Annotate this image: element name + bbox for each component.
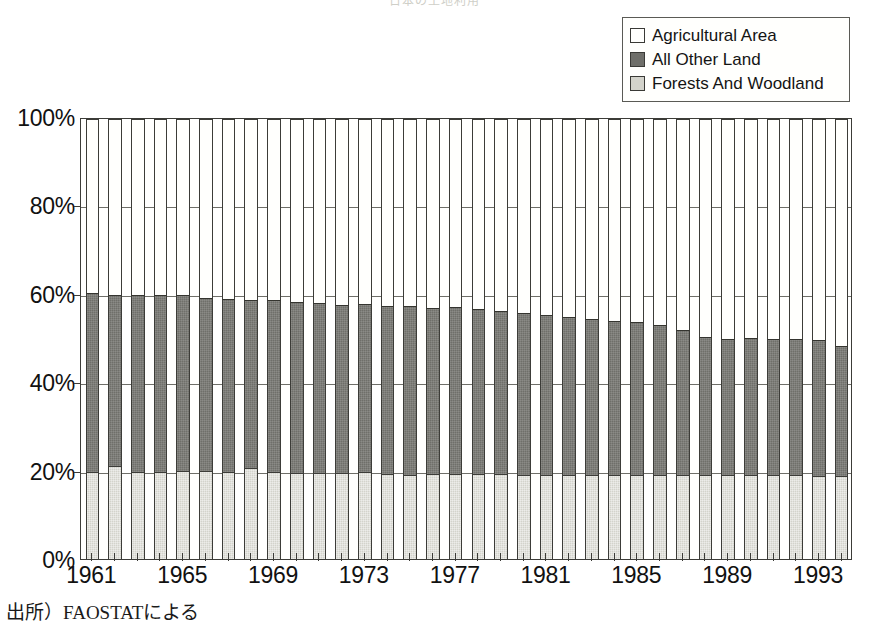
- bar-1994[interactable]: [835, 119, 849, 559]
- bar-segment-all-other-land: [540, 315, 554, 475]
- bar-segment-agricultural-area: [313, 119, 327, 303]
- bar-segment-forests-and-woodland: [835, 476, 849, 560]
- bar-1967[interactable]: [222, 119, 236, 559]
- bar-segment-all-other-land: [472, 309, 486, 475]
- chart-title: 日本の土地利用: [0, 0, 869, 8]
- bar-1976[interactable]: [426, 119, 440, 559]
- bar-1990[interactable]: [744, 119, 758, 559]
- bar-1982[interactable]: [562, 119, 576, 559]
- x-axis-tick-1969: 1969: [248, 562, 298, 589]
- bar-segment-all-other-land: [131, 295, 145, 471]
- bar-segment-agricultural-area: [290, 119, 304, 302]
- bar-1979[interactable]: [494, 119, 508, 559]
- bar-1987[interactable]: [676, 119, 690, 559]
- bar-segment-agricultural-area: [517, 119, 531, 313]
- x-axis-tick-mark-1986: [659, 553, 660, 561]
- bar-segment-agricultural-area: [358, 119, 372, 304]
- bar-1966[interactable]: [199, 119, 213, 559]
- bar-1970[interactable]: [290, 119, 304, 559]
- bar-segment-forests-and-woodland: [86, 472, 100, 560]
- bar-1964[interactable]: [154, 119, 168, 559]
- bar-segment-all-other-land: [699, 337, 713, 475]
- bar-segment-all-other-land: [108, 295, 122, 466]
- bar-1961[interactable]: [86, 119, 100, 559]
- bar-1969[interactable]: [267, 119, 281, 559]
- bar-segment-forests-and-woodland: [789, 475, 803, 560]
- bar-segment-agricultural-area: [222, 119, 236, 299]
- bar-1985[interactable]: [630, 119, 644, 559]
- bar-segment-forests-and-woodland: [381, 474, 395, 560]
- x-axis-tick-mark-1984: [614, 553, 615, 561]
- y-axis-tick-mark-80: [74, 206, 81, 207]
- bar-1963[interactable]: [131, 119, 145, 559]
- y-axis-tick-100: 100%: [17, 105, 75, 132]
- x-axis-tick-mark-1994: [841, 553, 842, 561]
- x-axis-tick-mark-1985: [636, 553, 637, 561]
- bar-segment-all-other-land: [494, 311, 508, 474]
- bar-1968[interactable]: [244, 119, 258, 559]
- x-axis-tick-mark-1965: [182, 553, 183, 561]
- bar-segment-agricultural-area: [335, 119, 349, 305]
- bar-segment-forests-and-woodland: [267, 472, 281, 560]
- bar-segment-agricultural-area: [789, 119, 803, 339]
- bar-1965[interactable]: [176, 119, 190, 559]
- bar-1988[interactable]: [699, 119, 713, 559]
- x-axis-tick-mark-1981: [545, 553, 546, 561]
- bar-1983[interactable]: [585, 119, 599, 559]
- bar-1991[interactable]: [767, 119, 781, 559]
- bar-1974[interactable]: [381, 119, 395, 559]
- x-axis-tick-1977: 1977: [430, 562, 480, 589]
- bar-segment-forests-and-woodland: [494, 474, 508, 560]
- bar-segment-forests-and-woodland: [449, 474, 463, 560]
- bar-1978[interactable]: [472, 119, 486, 559]
- bar-segment-agricultural-area: [199, 119, 213, 298]
- bar-segment-agricultural-area: [449, 119, 463, 307]
- bar-segment-forests-and-woodland: [744, 475, 758, 560]
- plot-area: [80, 118, 852, 560]
- legend-swatch-forests-and-woodland: [630, 76, 645, 91]
- bar-1972[interactable]: [335, 119, 349, 559]
- bar-segment-agricultural-area: [244, 119, 258, 300]
- bar-segment-all-other-land: [176, 295, 190, 471]
- bar-segment-all-other-land: [812, 340, 826, 475]
- bar-segment-forests-and-woodland: [131, 472, 145, 560]
- x-axis-tick-mark-1975: [409, 553, 410, 561]
- bar-segment-agricultural-area: [767, 119, 781, 339]
- x-axis-tick-mark-1964: [159, 553, 160, 561]
- bar-1977[interactable]: [449, 119, 463, 559]
- bar-1986[interactable]: [653, 119, 667, 559]
- bar-segment-all-other-land: [449, 307, 463, 474]
- bar-segment-forests-and-woodland: [199, 471, 213, 560]
- bar-segment-all-other-land: [244, 300, 258, 468]
- bar-segment-agricultural-area: [494, 119, 508, 311]
- bar-1973[interactable]: [358, 119, 372, 559]
- bar-segment-forests-and-woodland: [517, 475, 531, 560]
- legend-item-agricultural-area[interactable]: Agricultural Area: [630, 23, 842, 47]
- y-axis-tick-80: 80%: [30, 193, 75, 220]
- bar-segment-forests-and-woodland: [585, 475, 599, 560]
- x-axis-tick-mark-1966: [205, 553, 206, 561]
- bar-1975[interactable]: [403, 119, 417, 559]
- bar-segment-forests-and-woodland: [812, 476, 826, 560]
- bar-segment-agricultural-area: [108, 119, 122, 295]
- y-axis-tick-40: 40%: [30, 370, 75, 397]
- bar-1980[interactable]: [517, 119, 531, 559]
- bar-segment-all-other-land: [199, 298, 213, 471]
- legend-item-all-other-land[interactable]: All Other Land: [630, 47, 842, 71]
- x-axis-tick-mark-1983: [591, 553, 592, 561]
- x-axis-tick-1985: 1985: [611, 562, 661, 589]
- bar-segment-agricultural-area: [154, 119, 168, 295]
- bar-1992[interactable]: [789, 119, 803, 559]
- y-axis-tick-20: 20%: [30, 458, 75, 485]
- bar-1984[interactable]: [608, 119, 622, 559]
- bar-1981[interactable]: [540, 119, 554, 559]
- x-axis-tick-mark-1974: [387, 553, 388, 561]
- bar-1971[interactable]: [313, 119, 327, 559]
- bar-segment-agricultural-area: [721, 119, 735, 339]
- x-axis-tick-mark-1961: [91, 553, 92, 561]
- bar-1989[interactable]: [721, 119, 735, 559]
- bar-1962[interactable]: [108, 119, 122, 559]
- x-axis-tick-mark-1962: [114, 553, 115, 561]
- legend-item-forests-and-woodland[interactable]: Forests And Woodland: [630, 71, 842, 95]
- bar-1993[interactable]: [812, 119, 826, 559]
